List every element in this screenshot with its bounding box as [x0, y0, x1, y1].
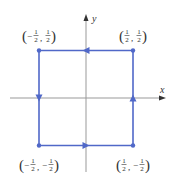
vertex-label-top-right: (12,12) — [119, 28, 147, 45]
x-axis-label: x — [159, 84, 165, 95]
paren: ( — [116, 157, 121, 174]
fraction-denominator: 2 — [140, 165, 144, 173]
comma: , — [131, 33, 133, 43]
vertex-label-bottom-left: (−12,−12) — [19, 157, 59, 174]
vertex-bottom-right — [131, 143, 135, 147]
fraction-numerator: 1 — [46, 28, 50, 36]
comma: , — [128, 162, 130, 172]
minus-sign: − — [133, 160, 138, 170]
fraction-denominator: 2 — [34, 36, 38, 44]
vertex-bottom-left — [37, 143, 41, 147]
vertex-top-left — [37, 48, 41, 52]
comma: , — [40, 33, 42, 43]
vertex-label-bottom-right: (12,−12) — [116, 157, 150, 174]
fraction-numerator: 1 — [137, 28, 141, 36]
fraction-numerator: 1 — [140, 157, 144, 165]
x-axis-arrow-icon — [159, 96, 166, 101]
vertex-label-top-left: (−12,12) — [22, 28, 56, 45]
fraction-numerator: 1 — [125, 28, 129, 36]
vertex-top-right — [131, 48, 135, 52]
fraction-denominator: 2 — [49, 165, 53, 173]
y-axis-label: y — [91, 13, 97, 24]
fraction-denominator: 2 — [31, 165, 35, 173]
paren: ) — [54, 157, 59, 174]
fraction-denominator: 2 — [122, 165, 126, 173]
paren: ) — [145, 157, 150, 174]
fraction-numerator: 1 — [34, 28, 38, 36]
paren: ) — [51, 28, 56, 45]
paren: ) — [142, 28, 147, 45]
paren: ( — [119, 28, 124, 45]
fraction-numerator: 1 — [122, 157, 126, 165]
minus-sign: − — [24, 160, 29, 170]
comma: , — [37, 162, 39, 172]
fraction-denominator: 2 — [125, 36, 129, 44]
minus-sign: − — [42, 160, 47, 170]
fraction-denominator: 2 — [137, 36, 141, 44]
fraction-numerator: 1 — [49, 157, 53, 165]
y-axis-arrow-icon — [84, 14, 89, 21]
minus-sign: − — [27, 31, 32, 41]
fraction-denominator: 2 — [46, 36, 50, 44]
square-path-diagram: x y (−12,12)(12,12)(−12,−12)(12,−12) — [0, 0, 173, 176]
fraction-numerator: 1 — [31, 157, 35, 165]
